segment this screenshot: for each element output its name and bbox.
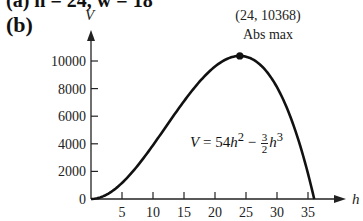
equation-fraction: 32	[261, 132, 269, 155]
curve-line	[91, 56, 314, 199]
equation-exp2: 3	[277, 130, 283, 144]
equation-label: V = 54h2 − 32h3	[190, 130, 283, 155]
equation-lhs: V	[190, 134, 199, 150]
y-axis-label: V	[85, 7, 96, 23]
x-tick-label: 30	[270, 205, 284, 220]
y-tick-label: 10000	[51, 54, 86, 69]
y-axis-arrow-icon	[87, 30, 95, 41]
max-point-marker	[236, 52, 243, 59]
fraction-denominator: 2	[261, 144, 269, 155]
x-axis-label: h	[352, 191, 360, 207]
equation-var1: h	[230, 134, 238, 150]
max-point-coordinates: (24, 10368)	[235, 8, 301, 24]
x-tick-label: 15	[177, 205, 191, 220]
x-axis-arrow-icon	[334, 195, 346, 203]
equation-var2: h	[269, 134, 277, 150]
x-tick-label: 25	[239, 205, 253, 220]
equation-coef: = 54	[199, 134, 230, 150]
y-tick-label: 4000	[58, 137, 86, 152]
x-tick-label: 20	[208, 205, 222, 220]
x-ticks: 5101520253035	[119, 192, 316, 220]
equation-minus: −	[244, 134, 260, 150]
y-tick-label: 8000	[58, 82, 86, 97]
x-tick-label: 35	[301, 205, 315, 220]
y-tick-label: 2000	[58, 164, 86, 179]
x-tick-label: 10	[146, 205, 160, 220]
x-tick-label: 5	[119, 205, 126, 220]
max-point-label: Abs max	[243, 27, 293, 42]
y-tick-label: 6000	[58, 109, 86, 124]
chart: 0200040006000800010000 5101520253035 V h…	[0, 0, 363, 221]
y-tick-label: 0	[79, 192, 86, 207]
